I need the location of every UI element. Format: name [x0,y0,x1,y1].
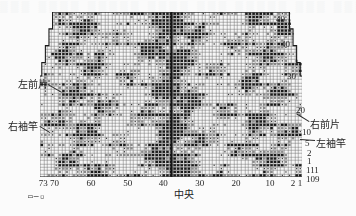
x-axis-tick: 1 [298,178,303,188]
x-axis-tick: 2 [291,178,296,188]
x-axis-tick: 73 [39,178,48,188]
row-number: 109 [306,175,320,184]
stitch-symbol-legend: ▭─▫ [28,192,45,201]
row-number: 49 [276,15,285,24]
label-right-front-panel: 右前片 [310,120,340,130]
x-axis: 737060504030201021 [40,178,302,190]
label-left-armhole: 左袖竿 [316,139,346,149]
x-axis-tick: 10 [266,178,275,188]
x-axis-tick: 30 [195,178,204,188]
knitting-grid [40,12,302,177]
row-number: 40 [281,40,290,49]
label-right-armhole: 右袖竿 [8,122,38,132]
x-axis-tick: 60 [87,178,96,188]
row-number: 30 [287,72,296,81]
x-axis-tick: 70 [50,178,59,188]
row-number: 10 [302,128,311,137]
chart-stage: ▒▒▒ ▒▒▒▒ ▒▒▒▒▒ ▒▒▒▒ ▒▒▒ ▒▒▒▒▒ ▒▒▒ ▒▒▒▒ 左… [0,0,356,216]
grid-canvas [40,12,302,177]
x-axis-tick: 40 [159,178,168,188]
label-center: 中央 [174,190,194,200]
x-axis-tick: 50 [123,178,132,188]
x-axis-tick: 20 [231,178,240,188]
label-left-front-panel: 左前片 [18,80,48,90]
